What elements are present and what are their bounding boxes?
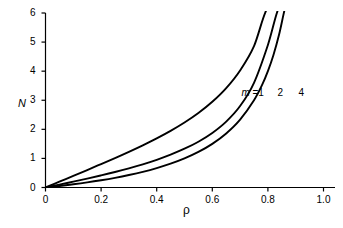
curve-annotation-m1: m =1	[241, 87, 264, 98]
x-tick-label: 0.2	[84, 194, 118, 205]
x-axis-title: ρ	[183, 203, 190, 217]
y-tick-label: 4	[18, 65, 36, 76]
x-axis-ticks	[46, 188, 324, 192]
curve-annotation-value: =1	[250, 87, 264, 98]
y-tick-label: 6	[18, 7, 36, 18]
y-tick-label: 5	[18, 36, 36, 47]
x-tick-label: 0.4	[140, 194, 174, 205]
data-curves	[46, 4, 309, 187]
y-axis-title: N	[18, 97, 26, 109]
x-tick-label: 1.0	[307, 194, 341, 205]
chart-figure: 0123456 00.20.40.60.81.0 N ρ m =124	[0, 0, 343, 228]
y-tick-label: 0	[18, 182, 36, 193]
y-tick-label: 1	[18, 152, 36, 163]
y-tick-label: 2	[18, 123, 36, 134]
curve-m-4	[46, 4, 309, 187]
curve-annotation-value: 4	[298, 87, 304, 98]
x-tick-label: 0.6	[195, 194, 229, 205]
curve-annotation-symbol: m	[241, 87, 249, 98]
x-tick-label: 0.8	[251, 194, 285, 205]
curve-annotation-m2: 2	[278, 87, 284, 98]
curve-annotation-value: 2	[278, 87, 284, 98]
x-tick-label: 0	[29, 194, 63, 205]
curve-annotation-m4: 4	[298, 87, 304, 98]
